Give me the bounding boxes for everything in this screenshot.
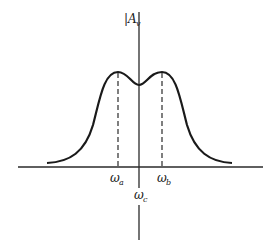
diagram-canvas: | A v ω a ω b ω c	[0, 0, 274, 242]
svg-text:c: c	[143, 195, 148, 204]
svg-text:v: v	[136, 19, 141, 28]
omega-b-label: ω b	[157, 171, 171, 187]
response-plot: | A v ω a ω b ω c	[0, 0, 274, 242]
svg-text:b: b	[166, 178, 171, 187]
omega-c-label: ω c	[134, 188, 148, 204]
omega-a-label: ω a	[110, 171, 124, 187]
svg-text:a: a	[119, 178, 124, 187]
